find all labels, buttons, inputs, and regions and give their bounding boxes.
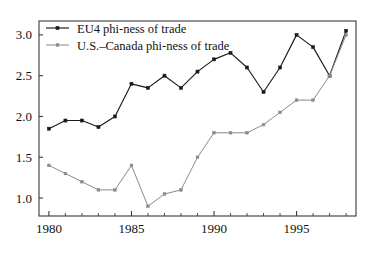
data-point xyxy=(47,127,50,130)
legend-item-2: U.S.–Canada phi-ness of trade xyxy=(46,39,230,53)
data-point xyxy=(114,189,117,192)
data-point xyxy=(312,46,315,49)
data-point xyxy=(97,189,100,192)
data-point xyxy=(262,90,265,93)
data-point xyxy=(312,99,315,102)
x-tick-label: 1990 xyxy=(201,221,227,236)
data-point xyxy=(229,131,232,134)
data-point xyxy=(163,74,166,77)
x-axis-tick-labels: 1980198519901995 xyxy=(36,221,310,236)
legend-item-1: EU4 phi-ness of trade xyxy=(46,22,187,36)
data-point xyxy=(246,131,249,134)
data-point xyxy=(81,180,84,183)
legend-swatch-marker xyxy=(56,26,59,29)
legend-label: U.S.–Canada phi-ness of trade xyxy=(77,39,230,53)
data-point xyxy=(279,66,282,69)
y-axis-tick-labels: 1.01.52.02.53.0 xyxy=(16,27,32,205)
data-point xyxy=(279,111,282,114)
y-tick-label: 3.0 xyxy=(16,27,32,42)
x-tick-label: 1985 xyxy=(118,221,144,236)
data-series-group xyxy=(47,29,347,207)
y-tick-label: 2.0 xyxy=(16,109,32,124)
legend-label: EU4 phi-ness of trade xyxy=(77,22,187,36)
legend-swatch-marker xyxy=(56,44,59,47)
y-tick-label: 1.5 xyxy=(16,150,32,165)
data-point xyxy=(196,156,199,159)
data-point xyxy=(212,58,215,61)
data-point xyxy=(328,74,331,77)
line-chart: 1.01.52.02.53.0 1980198519901995 EU4 phi… xyxy=(0,0,369,255)
data-point xyxy=(97,126,100,129)
data-point xyxy=(113,115,116,118)
x-tick-label: 1995 xyxy=(284,221,310,236)
axis-ticks xyxy=(39,35,346,216)
plot-area: 1.01.52.02.53.0 1980198519901995 EU4 phi… xyxy=(0,0,369,255)
data-point xyxy=(163,193,166,196)
data-point xyxy=(196,70,199,73)
y-tick-label: 1.0 xyxy=(16,191,32,206)
data-point xyxy=(130,82,133,85)
data-point xyxy=(64,119,67,122)
y-tick-label: 2.5 xyxy=(16,68,32,83)
data-point xyxy=(345,34,348,37)
series-line xyxy=(49,35,346,206)
data-point xyxy=(48,164,51,167)
data-point xyxy=(180,189,183,192)
data-point xyxy=(179,86,182,89)
series-2 xyxy=(48,34,348,208)
data-point xyxy=(229,51,232,54)
data-point xyxy=(245,66,248,69)
data-point xyxy=(262,123,265,126)
data-point xyxy=(130,164,133,167)
chart-legend: EU4 phi-ness of tradeU.S.–Canada phi-nes… xyxy=(46,22,230,53)
data-point xyxy=(64,172,67,175)
data-point xyxy=(295,99,298,102)
data-point xyxy=(295,33,298,36)
data-point xyxy=(213,131,216,134)
data-point xyxy=(147,205,150,208)
data-point xyxy=(345,29,348,32)
data-point xyxy=(80,119,83,122)
data-point xyxy=(146,86,149,89)
x-tick-label: 1980 xyxy=(36,221,62,236)
